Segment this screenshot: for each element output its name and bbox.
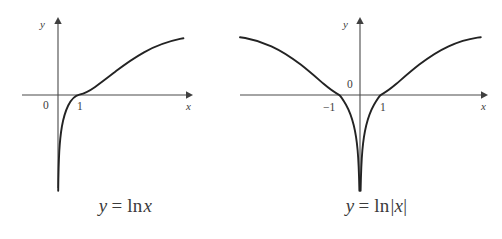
x-axis-label: x: [185, 100, 191, 112]
caption-argument: x: [395, 195, 404, 216]
caption-argument: x: [144, 195, 153, 216]
caption-equals: =: [107, 195, 126, 216]
panel-ln-x: y x 0 1 y=lnx: [0, 0, 251, 239]
x-tick-label-1: 1: [380, 101, 386, 113]
origin-label: 0: [43, 99, 49, 111]
caption-ln-abs-x: y=ln|x|: [251, 192, 502, 220]
y-axis-label: y: [342, 18, 348, 30]
caption-ln-operator: ln: [126, 195, 143, 216]
label-layer-ln-x: y x 0 1: [0, 0, 251, 190]
caption-equals: =: [354, 195, 373, 216]
origin-label: 0: [347, 78, 353, 90]
caption-ln-x: y=lnx: [0, 192, 251, 220]
x-tick-label-minus-1: −1: [323, 101, 335, 113]
logarithm-figure-pair: y x 0 1 y=lnx: [0, 0, 502, 239]
y-axis-label: y: [39, 18, 45, 30]
x-tick-label-1: 1: [77, 100, 83, 112]
panel-ln-abs-x: y x 0 −1 1 y=ln|x|: [251, 0, 502, 239]
label-layer-ln-abs-x: y x 0 −1 1: [251, 0, 502, 190]
caption-ln-operator: ln: [373, 195, 390, 216]
plot-area-ln-x: y x 0 1: [0, 0, 251, 190]
x-axis-label: x: [480, 100, 486, 112]
caption-right-bar: |: [403, 195, 407, 216]
plot-area-ln-abs-x: y x 0 −1 1: [251, 0, 502, 190]
